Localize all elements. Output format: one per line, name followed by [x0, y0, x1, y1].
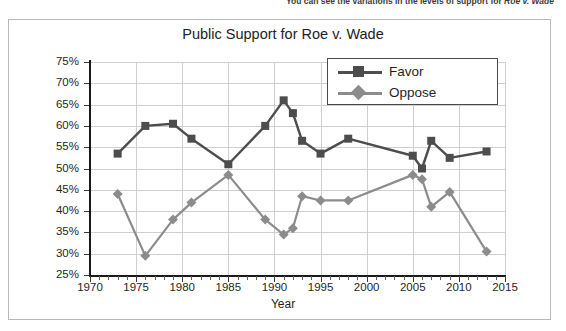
legend-marker-diamond-icon: [351, 85, 367, 101]
data-point-marker-square: [224, 160, 232, 168]
data-point-marker-diamond: [482, 247, 492, 257]
screenshot-root: You can see the variations in the levels…: [0, 0, 566, 331]
series-line-favor: [118, 100, 487, 168]
legend-marker-square-icon: [353, 66, 364, 77]
data-point-marker-diamond: [316, 195, 326, 205]
data-point-marker-square: [289, 109, 297, 117]
data-point-marker-square: [169, 120, 177, 128]
data-point-marker-square: [409, 152, 417, 160]
legend-label-oppose: Oppose: [389, 82, 436, 103]
data-point-marker-diamond: [417, 174, 427, 184]
data-point-marker-square: [187, 135, 195, 143]
data-point-marker-square: [261, 122, 269, 130]
data-point-marker-square: [427, 137, 435, 145]
legend-label-favor: Favor: [389, 61, 424, 82]
data-point-marker-square: [298, 137, 306, 145]
data-point-marker-square: [114, 150, 122, 158]
series-layer: [0, 0, 566, 331]
chart-legend: Favor Oppose: [327, 58, 498, 105]
data-point-marker-square: [141, 122, 149, 130]
data-point-marker-diamond: [408, 170, 418, 180]
data-point-marker-square: [418, 165, 426, 173]
data-point-marker-square: [483, 147, 491, 155]
data-point-marker-square: [446, 154, 454, 162]
data-point-marker-diamond: [297, 191, 307, 201]
data-point-marker-diamond: [343, 195, 353, 205]
data-point-marker-square: [280, 96, 288, 104]
data-point-marker-square: [344, 135, 352, 143]
data-point-marker-square: [317, 150, 325, 158]
data-point-marker-diamond: [113, 189, 123, 199]
